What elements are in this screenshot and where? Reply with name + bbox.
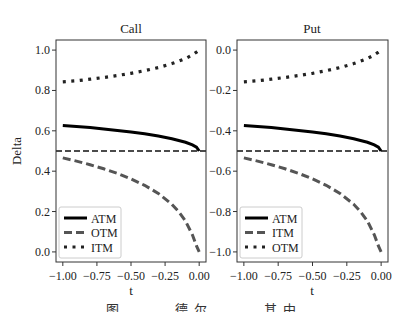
y-axis-label: Delta: [9, 137, 24, 165]
y-tick-label: 0.6: [35, 124, 50, 138]
x-tick-label: −1.00: [230, 269, 258, 283]
legend-label-otm: OTM: [272, 241, 299, 255]
x-tick-label: −1.00: [49, 269, 77, 283]
x-tick-label: −0.75: [83, 269, 111, 283]
y-tick-label: −0.8: [209, 205, 231, 219]
y-tick-label: 0.8: [35, 83, 50, 97]
legend: ATMITMOTM: [240, 207, 302, 258]
legend-label-otm: OTM: [91, 226, 118, 240]
series-itm-line: [63, 50, 199, 82]
put-title: Put: [303, 21, 321, 36]
y-tick-label: −0.2: [209, 83, 231, 97]
figure-caption: 图 ... 德尔 ... 其中: [0, 303, 408, 312]
legend-label-itm: ITM: [91, 241, 113, 255]
series-atm-line: [244, 125, 381, 151]
legend-label-atm: ATM: [272, 212, 298, 226]
x-tick-label: −0.75: [264, 269, 292, 283]
call-chart: −1.00−0.75−0.50−0.250.000.00.20.40.60.81…: [35, 40, 210, 283]
x-tick-label: −0.25: [151, 269, 179, 283]
x-tick-label: −0.50: [299, 269, 327, 283]
y-tick-label: 0.4: [35, 164, 50, 178]
y-tick-label: 0.0: [35, 245, 50, 259]
series-atm-line: [63, 125, 199, 151]
call-x-axis-label: t: [129, 283, 133, 298]
x-tick-label: 0.00: [189, 269, 210, 283]
call-title: Call: [120, 21, 142, 36]
put-x-axis-label: t: [310, 283, 314, 298]
legend-label-atm: ATM: [91, 212, 117, 226]
series-otm-line: [244, 50, 381, 82]
y-tick-label: −0.4: [209, 124, 231, 138]
delta-figure: −1.00−0.75−0.50−0.250.000.00.20.40.60.81…: [0, 0, 408, 312]
x-tick-label: −0.50: [117, 269, 145, 283]
y-tick-label: −0.6: [209, 164, 231, 178]
put-chart: −1.00−0.75−0.50−0.250.00−1.0−0.8−0.6−0.4…: [209, 40, 391, 283]
y-tick-label: 1.0: [35, 43, 50, 57]
legend: ATMOTMITM: [59, 207, 121, 258]
y-tick-label: 0.0: [216, 43, 231, 57]
x-tick-label: −0.25: [333, 269, 361, 283]
legend-label-itm: ITM: [272, 226, 294, 240]
y-tick-label: −1.0: [209, 245, 231, 259]
x-tick-label: 0.00: [371, 269, 392, 283]
y-tick-label: 0.2: [35, 205, 50, 219]
